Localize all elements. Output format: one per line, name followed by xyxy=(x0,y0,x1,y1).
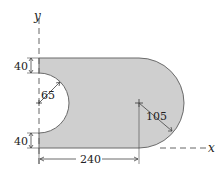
length-label: 240 xyxy=(80,153,101,166)
y-axis-label: y xyxy=(33,9,41,23)
end-radius-label: 105 xyxy=(146,110,167,123)
top-offset-label: 40 xyxy=(14,60,28,73)
plate-diagram: y x 40 65 40 240 105 xyxy=(0,0,222,174)
x-axis-label: x xyxy=(208,141,215,155)
plate-shape xyxy=(39,58,184,148)
cutout-radius-label: 65 xyxy=(41,89,55,102)
bottom-offset-label: 40 xyxy=(14,135,28,148)
